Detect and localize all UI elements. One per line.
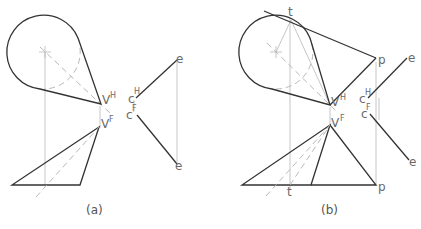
radius-to-t bbox=[276, 20, 291, 52]
label-c-front-sup: F bbox=[366, 103, 371, 112]
label-p-bottom: p bbox=[378, 180, 386, 194]
line-ce-top bbox=[368, 58, 407, 98]
line-t-v bbox=[291, 20, 330, 105]
label-vertex-top-sup: H bbox=[340, 93, 346, 102]
label-p-top: p bbox=[378, 53, 386, 67]
cone-front-view bbox=[12, 127, 99, 185]
hidden-arc bbox=[276, 44, 313, 89]
label-t-bottom: t bbox=[287, 185, 292, 199]
cone-axis-top bbox=[267, 43, 337, 112]
label-vertex-top: V bbox=[331, 95, 340, 109]
hidden-arc bbox=[44, 48, 80, 89]
label-c-top-sup: H bbox=[365, 88, 371, 97]
label-vertex-top-sup: H bbox=[110, 91, 116, 100]
panel-a: V H V F c H c F e e (a) bbox=[7, 15, 184, 217]
label-e-bottom: e bbox=[409, 155, 416, 169]
caption-a: (a) bbox=[86, 203, 103, 217]
label-e-bottom: e bbox=[175, 159, 182, 173]
cone-front-view bbox=[242, 125, 330, 185]
label-vertex-front-sup: F bbox=[109, 115, 114, 124]
label-c-top-sup: H bbox=[134, 87, 140, 96]
tangent-plane-edge bbox=[264, 11, 376, 58]
line-ce-top bbox=[136, 60, 177, 98]
label-e-top: e bbox=[408, 51, 415, 65]
label-c-front-sup: F bbox=[132, 104, 137, 113]
label-e-top: e bbox=[176, 52, 183, 66]
caption-b: (b) bbox=[321, 203, 338, 217]
element-t-v-front bbox=[290, 125, 330, 185]
label-vertex-front-sup: F bbox=[340, 114, 345, 123]
label-vertex-front: V bbox=[331, 116, 340, 130]
label-t-top: t bbox=[288, 5, 293, 19]
panel-b: t t p p V H V F c H c F e e (b) bbox=[239, 5, 417, 217]
technical-drawing: V H V F c H c F e e (a) bbox=[0, 0, 421, 229]
line-ce-front bbox=[137, 115, 177, 164]
